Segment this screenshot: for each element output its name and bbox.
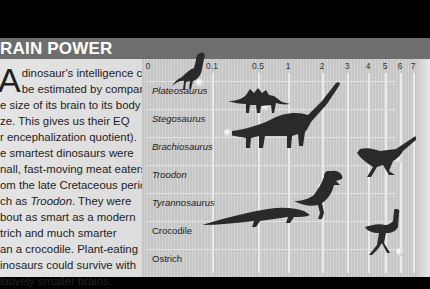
- top-black-bar: [0, 0, 430, 38]
- drop-cap: A: [0, 65, 21, 95]
- eq-marker: [224, 129, 232, 137]
- article-line: latively smaller brains.: [0, 273, 142, 289]
- row-label: Ostrich: [152, 253, 182, 264]
- article-line: ch as Troodon. They were: [0, 193, 142, 209]
- article-column: A dinosaur's intelligence can be estimat…: [0, 59, 142, 277]
- article-line: e smartest dinosaurs were: [0, 145, 142, 161]
- article-line: trich and much smarter: [0, 225, 142, 241]
- row-label: Crocodile: [152, 225, 192, 236]
- brachiosaurus-illustration: [232, 81, 342, 149]
- italic-name: Troodon: [30, 195, 72, 207]
- x-axis-tick: 1: [286, 61, 291, 71]
- chart-row: Ostrich: [146, 249, 396, 270]
- plateosaurus-illustration: [170, 51, 212, 91]
- article-line: nall, fast-moving meat eaters: [0, 161, 142, 177]
- section-header: RAIN POWER: [0, 38, 430, 59]
- article-line: dinosaur's intelligence can: [0, 65, 142, 81]
- x-axis-tick: 0: [146, 61, 151, 71]
- article-line: e size of its brain to its body: [0, 97, 142, 113]
- crocodile-illustration: [202, 203, 312, 231]
- article-line: inosaurs could survive with: [0, 257, 142, 273]
- x-axis-tick: 4: [366, 61, 371, 71]
- eq-chart: 00.10.51234567 PlateosaurusStegosaurusBr…: [142, 59, 430, 277]
- article-line: bout as smart as a modern: [0, 209, 142, 225]
- article-body: A dinosaur's intelligence can be estimat…: [0, 65, 142, 289]
- row-label: Stegosaurus: [152, 113, 205, 124]
- article-line: ze. This gives us their EQ: [0, 113, 142, 129]
- section-title: RAIN POWER: [0, 39, 113, 59]
- x-axis-tick: 0.5: [252, 61, 264, 71]
- chart-edge-shade: [416, 59, 430, 277]
- x-axis-tick: 3: [345, 61, 350, 71]
- x-axis-tick: 5: [383, 61, 388, 71]
- x-axis-tick: 7: [411, 61, 416, 71]
- row-label: Troodon: [152, 169, 187, 180]
- article-line: om the late Cretaceous period,: [0, 177, 142, 193]
- ostrich-illustration: [360, 207, 408, 257]
- row-label: Brachiosaurus: [152, 141, 213, 152]
- article-line: r encephalization quotient).: [0, 129, 142, 145]
- x-axis-tick: 6: [398, 61, 403, 71]
- article-line: an a crocodile. Plant-eating: [0, 241, 142, 257]
- article-line: be estimated by comparing: [0, 81, 142, 97]
- x-axis-tick: 2: [320, 61, 325, 71]
